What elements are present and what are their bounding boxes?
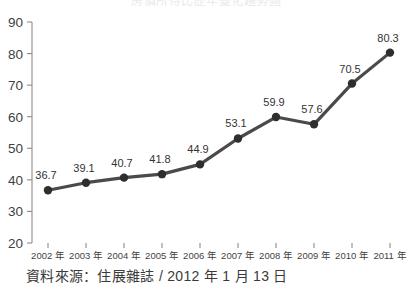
data-point-labels: 36.739.140.741.844.953.159.957.670.580.3 [35,32,398,182]
data-point-label: 59.9 [263,96,284,108]
x-tick-label: 2002 年 [31,250,65,261]
data-point-marker [272,113,280,121]
source-note: 資料來源：住展雜誌 / 2012 年 1 月 13 日 [26,265,288,285]
data-point-marker [120,173,128,181]
x-tick-label: 2008 年 [259,250,293,261]
x-tick-label: 2009 年 [297,250,331,261]
data-point-marker [348,79,356,87]
data-point-label: 70.5 [339,63,360,75]
x-tick-label: 2007 年 [221,250,255,261]
y-tick-label: 50 [8,141,23,156]
y-tick-label: 20 [8,236,23,251]
data-point-label: 53.1 [225,117,246,129]
y-tick-label: 60 [8,110,23,125]
data-point-label: 44.9 [187,143,208,155]
y-tick-label: 70 [8,78,23,93]
x-tick-label: 2005 年 [145,250,179,261]
y-axis: 2030405060708090 [8,15,32,251]
data-point-label: 57.6 [301,103,322,115]
data-point-label: 36.7 [35,169,56,181]
data-point-marker [234,134,242,142]
chart-plot-area: 2030405060708090 2002 年2003 年2004 年2005 … [0,0,412,262]
x-tick-label: 2003 年 [69,250,103,261]
x-tick-label: 2011 年 [373,250,406,261]
data-point-marker [158,170,166,178]
data-point-marker [82,178,90,186]
data-point-marker [386,48,394,56]
data-point-marker [310,120,318,128]
data-point-label: 41.8 [149,153,170,165]
y-tick-label: 80 [8,47,23,62]
line-chart-svg: 2030405060708090 2002 年2003 年2004 年2005 … [0,0,412,262]
data-point-label: 80.3 [377,32,398,44]
x-tick-label: 2010 年 [335,250,369,261]
data-point-label: 39.1 [73,162,94,174]
x-tick-label: 2004 年 [107,250,141,261]
data-point-marker [44,186,52,194]
x-tick-label: 2006 年 [183,250,217,261]
x-axis: 2002 年2003 年2004 年2005 年2006 年2007 年2008… [31,243,406,261]
y-tick-label: 30 [8,204,23,219]
data-point-label: 40.7 [111,157,132,169]
y-tick-label: 90 [8,15,23,30]
data-point-marker [196,160,204,168]
y-tick-label: 40 [8,173,23,188]
